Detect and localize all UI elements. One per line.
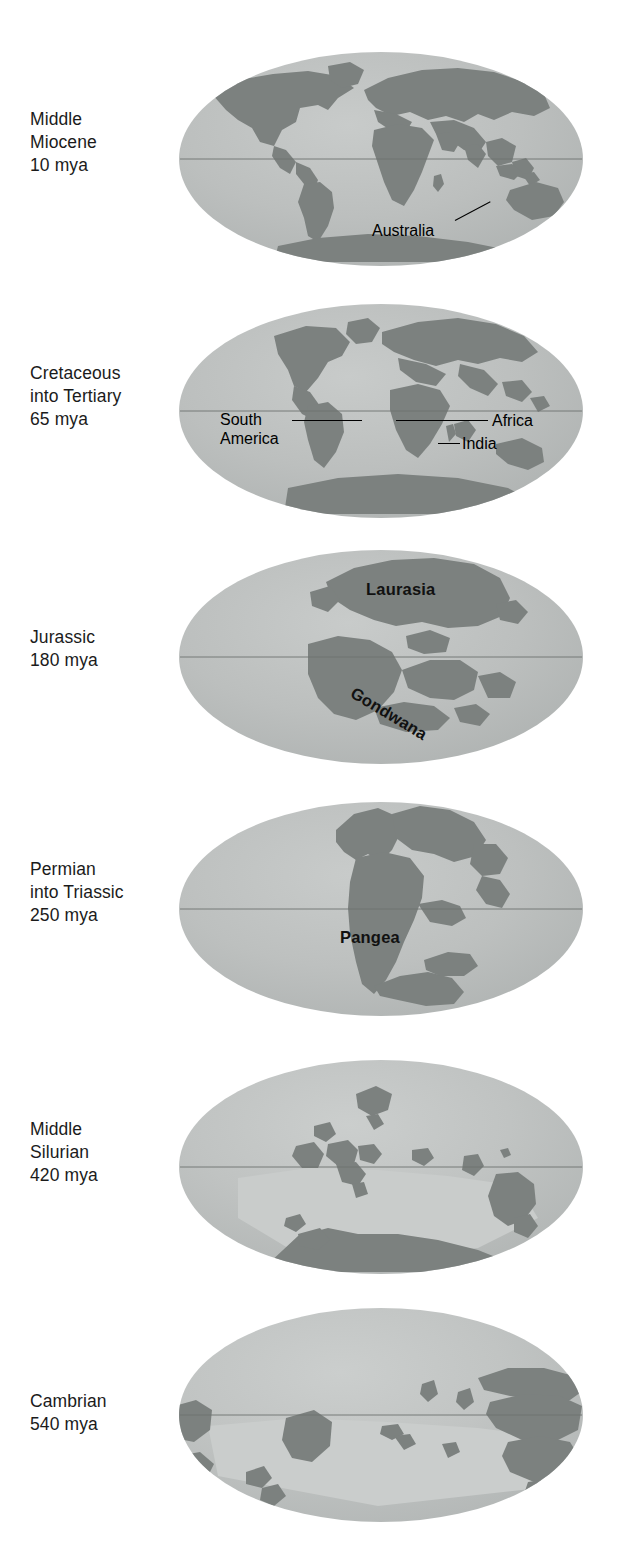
mollweide-map-svg (178, 800, 584, 1018)
panel-cambrian: Cambrian 540 mya (0, 1306, 619, 1534)
panel-silurian: Middle Silurian 420 mya (0, 1058, 619, 1286)
annotation-africa: Africa (492, 412, 533, 430)
paleogeography-figure: Middle Miocene 10 mya (0, 0, 619, 1558)
era-label-jurassic: Jurassic 180 mya (30, 626, 98, 672)
panel-permian: Permian into Triassic 250 mya (0, 800, 619, 1028)
panel-middle-miocene: Middle Miocene 10 mya (0, 50, 619, 275)
panel-jurassic: Jurassic 180 mya (0, 548, 619, 776)
annotation-south-america: South America (220, 410, 279, 448)
leader-line-africa (396, 420, 488, 421)
leader-line-south-america (292, 420, 362, 421)
annotation-australia: Australia (372, 222, 434, 240)
era-label-cambrian: Cambrian 540 mya (30, 1390, 107, 1436)
mollweide-map-svg (178, 1306, 584, 1524)
annotation-india: India (462, 435, 497, 453)
map-cambrian (178, 1306, 584, 1524)
leader-line-india (438, 443, 460, 444)
era-label-middle-miocene: Middle Miocene 10 mya (30, 108, 97, 177)
era-label-cretaceous: Cretaceous into Tertiary 65 mya (30, 362, 121, 431)
map-silurian (178, 1058, 584, 1276)
panel-cretaceous: Cretaceous into Tertiary 65 mya (0, 302, 619, 527)
annotation-pangea: Pangea (340, 928, 400, 947)
era-label-permian: Permian into Triassic 250 mya (30, 858, 124, 927)
annotation-laurasia: Laurasia (366, 580, 435, 599)
era-label-silurian: Middle Silurian 420 mya (30, 1118, 98, 1187)
mollweide-map-svg (178, 1058, 584, 1276)
map-permian (178, 800, 584, 1018)
